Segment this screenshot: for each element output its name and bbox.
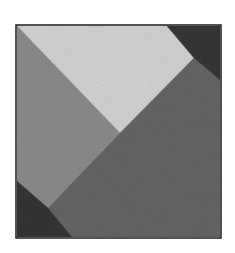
texture-mosaic-image <box>0 0 235 253</box>
texture-regions <box>17 26 220 237</box>
